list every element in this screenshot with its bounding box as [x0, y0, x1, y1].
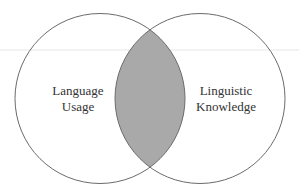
left-set-label-line1: Language	[52, 83, 103, 98]
left-set-label-line2: Usage	[62, 99, 95, 114]
right-set-label-line2: Knowledge	[196, 99, 256, 114]
venn-diagram-canvas: Language Usage Linguistic Knowledge	[0, 0, 299, 196]
right-set-label-line1: Linguistic	[200, 83, 253, 98]
venn-diagram: Language Usage Linguistic Knowledge	[0, 0, 299, 196]
